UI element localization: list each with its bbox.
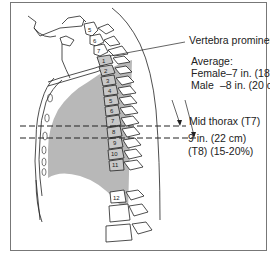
- c7-label: Vertebra prominens (C7): [189, 34, 270, 46]
- male-measurement-label: Male: [191, 79, 214, 91]
- mid-thorax-label: Mid thorax (T7): [189, 115, 260, 127]
- lumbar-vertebrae: [106, 204, 132, 242]
- vertebra-label-t12: 12: [113, 195, 120, 201]
- female-measurement: Female–7 in. (18 cm): [191, 67, 270, 79]
- t8-label: (T8) (15-20%): [188, 145, 253, 157]
- depth-label: 9 in. (22 cm): [188, 132, 246, 144]
- vertebra-label-t10: 10: [111, 151, 118, 157]
- male-measurement-value: –8 in. (20 cm): [220, 79, 270, 91]
- average-title: Average:: [191, 55, 233, 67]
- vertebra-label-t11: 11: [112, 162, 119, 168]
